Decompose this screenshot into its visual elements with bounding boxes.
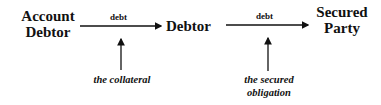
annotation-collateral: the collateral <box>86 73 158 86</box>
secured-party-line2: Party <box>311 20 373 36</box>
account-debtor-line1: Account <box>17 8 79 24</box>
edge-label-debt-1: debt <box>110 12 127 22</box>
edge-label-debt-2: debt <box>256 11 273 21</box>
account-debtor-line2: Debtor <box>17 24 79 40</box>
node-account-debtor: Account Debtor <box>17 8 79 40</box>
secured-obligation-line1: the secured <box>236 73 302 86</box>
secured-obligation-line2: obligation <box>236 86 302 99</box>
node-debtor: Debtor <box>166 18 211 34</box>
annotation-secured-obligation: the secured obligation <box>236 73 302 99</box>
secured-party-line1: Secured <box>311 4 373 20</box>
node-secured-party: Secured Party <box>311 4 373 36</box>
